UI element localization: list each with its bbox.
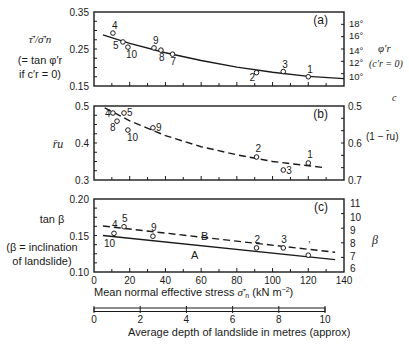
point-label: 9 xyxy=(156,122,162,133)
panel-c-left-ticks: 0.20 0.15 0.10 xyxy=(70,194,90,278)
panel-a-left-ticks: 0.35 0.25 0.15 xyxy=(70,7,90,92)
stray-label: c xyxy=(392,92,397,103)
svg-text:0.7: 0.7 xyxy=(348,175,362,186)
point-label: 2 xyxy=(255,234,261,245)
data-point xyxy=(111,31,116,36)
panel-a-right-label-2: (c′r = 0) xyxy=(369,58,404,70)
svg-text:4: 4 xyxy=(184,314,190,325)
point-label: 5 xyxy=(113,40,119,51)
data-point xyxy=(121,40,126,45)
svg-text:0.15: 0.15 xyxy=(70,81,90,92)
data-point xyxy=(281,69,286,74)
data-point xyxy=(122,224,127,229)
svg-text:120: 120 xyxy=(300,275,317,286)
panel-a-left-label: τ̄′/σ̄′n xyxy=(29,33,52,45)
data-point xyxy=(111,111,116,116)
svg-text:0.20: 0.20 xyxy=(70,194,90,205)
panel-c-left-label: tan β xyxy=(40,213,65,225)
x-tick-labels: 020406080100120140 xyxy=(91,275,353,286)
svg-text:6: 6 xyxy=(350,263,356,274)
data-point xyxy=(254,155,259,160)
svg-text:16°: 16° xyxy=(349,30,364,41)
svg-text:18°: 18° xyxy=(349,18,364,29)
svg-text:14°: 14° xyxy=(349,45,364,56)
point-label: 4 xyxy=(112,20,118,31)
svg-text:9: 9 xyxy=(350,225,356,236)
svg-text:6: 6 xyxy=(230,314,236,325)
svg-text:60: 60 xyxy=(196,275,208,286)
data-point xyxy=(112,231,117,236)
point-label: 8 xyxy=(110,122,116,133)
svg-text:80: 80 xyxy=(231,275,243,286)
data-points: 451098723145810923145923’10 xyxy=(104,20,313,257)
panel-a-right-label: φ′r xyxy=(378,42,391,54)
panel-c-right-ticks: 11 10 9 8 7 6 xyxy=(350,198,362,274)
data-point xyxy=(306,253,311,258)
panel-c-left-label-2: (β = inclination xyxy=(6,241,77,253)
point-label: 4 xyxy=(105,108,111,119)
data-point xyxy=(306,74,311,79)
depth-axis-title: Average depth of landslide in metres (ap… xyxy=(128,326,350,338)
svg-text:0.4: 0.4 xyxy=(75,138,89,149)
svg-text:0.5: 0.5 xyxy=(348,101,362,112)
svg-text:0: 0 xyxy=(91,314,97,325)
data-point xyxy=(151,126,156,131)
svg-text:10: 10 xyxy=(319,314,331,325)
data-point xyxy=(281,168,286,173)
svg-text:0.3: 0.3 xyxy=(75,175,89,186)
point-label: 3 xyxy=(286,165,292,176)
data-point xyxy=(281,246,286,251)
panel-b-left-label: r̄u xyxy=(53,137,64,151)
point-label: 10 xyxy=(126,49,138,60)
svg-text:10: 10 xyxy=(350,212,362,223)
panel-a-left-label-3: if c′r = 0) xyxy=(19,68,61,80)
depth-scale-bar xyxy=(94,308,325,312)
point-label: 1 xyxy=(307,149,313,160)
panel-c-tag: (c) xyxy=(314,200,328,214)
point-label: 10 xyxy=(127,132,139,143)
panel-c-frame xyxy=(94,199,344,272)
svg-text:7: 7 xyxy=(350,251,356,262)
svg-text:0.5: 0.5 xyxy=(75,101,89,112)
line-a-label: A xyxy=(191,249,199,261)
data-point xyxy=(151,234,156,239)
point-label: 8 xyxy=(159,52,165,63)
svg-text:0: 0 xyxy=(91,275,97,286)
panel-c-left-label-3: of landslide) xyxy=(12,255,71,267)
point-label: 2 xyxy=(256,143,262,154)
svg-text:8: 8 xyxy=(276,314,282,325)
line-b-label: B xyxy=(201,230,208,242)
point-label: 5 xyxy=(122,213,128,224)
panel-b-right-ticks: 0.5 0.6 0.7 xyxy=(348,101,362,186)
svg-text:12°: 12° xyxy=(349,57,364,68)
data-point xyxy=(152,46,157,51)
svg-text:10°: 10° xyxy=(349,71,364,82)
point-label: 1 xyxy=(307,64,313,75)
svg-text:0.25: 0.25 xyxy=(70,44,90,55)
data-point xyxy=(306,161,311,166)
panel-b-right-label: (1 − r̄u) xyxy=(366,130,399,142)
panel-a-right-ticks: 18° 16° 14° 12° 10° xyxy=(349,18,364,82)
point-label: 4 xyxy=(112,219,118,230)
point-label: 9 xyxy=(151,222,157,233)
panel-a-tag: (a) xyxy=(313,13,328,27)
panel-c-right-label: β xyxy=(371,233,378,247)
svg-text:0.35: 0.35 xyxy=(70,7,90,18)
point-label: 3 xyxy=(282,59,288,70)
point-label: 2 xyxy=(250,72,256,83)
point-label: 5 xyxy=(127,107,133,118)
svg-text:20: 20 xyxy=(124,275,136,286)
point-label: ’ xyxy=(308,240,310,251)
x-axis-title: Mean normal effective stress σ̄′n (kN m−… xyxy=(94,286,293,299)
figure: 451098723145810923145923’10 (a) (b) (c) … xyxy=(0,0,409,346)
depth-tick-labels: 0246810 xyxy=(91,314,331,325)
panel-b-tag: (b) xyxy=(313,107,328,121)
svg-text:11: 11 xyxy=(350,198,361,209)
svg-text:40: 40 xyxy=(160,275,172,286)
data-point xyxy=(122,111,127,116)
svg-text:0.10: 0.10 xyxy=(70,267,90,278)
point-label: 3 xyxy=(281,234,287,245)
svg-text:2: 2 xyxy=(137,314,143,325)
svg-text:140: 140 xyxy=(336,275,353,286)
svg-text:100: 100 xyxy=(264,275,281,286)
